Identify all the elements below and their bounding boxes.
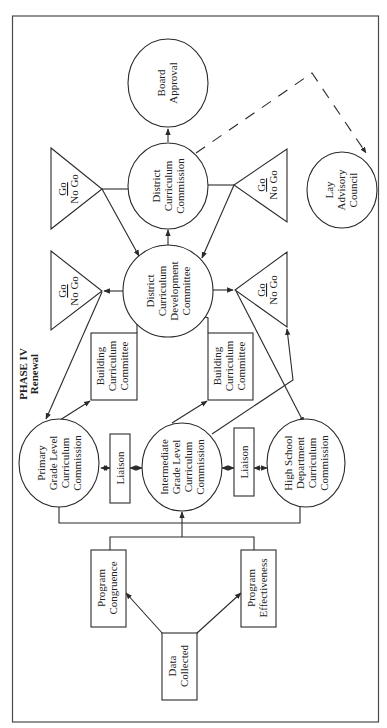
label-line: Grade Level <box>170 440 182 495</box>
label-line: Department <box>294 437 306 489</box>
no-go-label: No Go <box>267 275 279 305</box>
label-line: District <box>144 275 156 308</box>
decision-4: Go No Go <box>235 252 287 327</box>
node-intermediate-grade-commission: Intermediate Grade Level Curriculum Comm… <box>142 423 222 511</box>
node-building-committee-right: Building Curriculum Committee <box>208 333 253 400</box>
edge-intermediate-to-building <box>172 401 207 423</box>
label-line: Liaison <box>114 451 126 484</box>
go-label: Go <box>255 178 267 192</box>
label-line: Curriculum <box>223 340 235 391</box>
label-line: Lay <box>323 181 335 199</box>
label-line: Data <box>166 656 178 677</box>
node-high-school-commission: High School Department Curriculum Commis… <box>267 419 345 507</box>
label-line: Committee <box>180 266 192 315</box>
edge-data-to-congruence <box>126 593 163 634</box>
phase-subtitle: Renewal <box>28 354 40 394</box>
label-line: Collected <box>178 644 190 687</box>
node-district-curriculum-development-committee: District Curriculum Development Committe… <box>123 245 213 337</box>
no-go-label: No Go <box>68 276 80 306</box>
phase-iv-renewal-flowchart: Go No Go Go No Go Go No Go Go No Go Boar… <box>0 0 387 728</box>
node-data-collected: Data Collected <box>162 633 197 700</box>
label-line: Grade Level <box>47 436 59 491</box>
label-line: Building <box>211 346 223 385</box>
label-line: Development <box>168 261 180 320</box>
label-line: Council <box>347 173 359 208</box>
edge-data-to-effectiveness <box>196 593 241 634</box>
outer-border <box>13 16 379 722</box>
edge-primary-to-building <box>60 401 90 420</box>
label-line: Curriculum <box>182 441 194 492</box>
decision-2: Go No Go <box>51 251 102 330</box>
go-label: Go <box>56 284 68 298</box>
label-line: Congruence <box>107 561 119 614</box>
no-go-label: No Go <box>68 174 80 204</box>
label-line: Curriculum <box>162 160 174 211</box>
label-line: Program <box>245 569 257 607</box>
node-liaison-right: Liaison <box>234 428 254 496</box>
decision-3: Go No Go <box>234 149 287 222</box>
node-district-curriculum-commission: District Curriculum Commission <box>128 143 208 229</box>
label-line: Intermediate <box>158 439 170 495</box>
label-line: Primary <box>35 445 47 481</box>
label-line: Commission <box>71 435 83 491</box>
label-line: Advisory <box>335 169 347 210</box>
node-liaison-left: Liaison <box>110 434 130 503</box>
label-line: Curriculum <box>156 265 168 316</box>
label-line: High School <box>282 435 294 490</box>
label-line: Commission <box>174 158 186 214</box>
label-line: Building <box>94 346 106 385</box>
decision-1: Go No Go <box>51 148 102 229</box>
label-line: Committee <box>118 341 130 390</box>
edge-program-boxes-join <box>110 537 254 550</box>
label-line: Curriculum <box>306 437 318 488</box>
go-label: Go <box>56 182 68 196</box>
phase-label: PHASE IV Renewal <box>17 348 40 400</box>
edge-commission-to-lay-advisory <box>196 73 366 153</box>
node-program-effectiveness: Program Effectiveness <box>241 550 276 627</box>
label-line: Board <box>155 69 167 96</box>
go-label: Go <box>255 283 267 297</box>
label-line: Approval <box>167 62 179 104</box>
label-line: Effectiveness <box>257 558 269 617</box>
label-line: Curriculum <box>59 437 71 488</box>
node-lay-advisory-council: Lay Advisory Council <box>307 152 377 228</box>
label-line: Program <box>95 569 107 607</box>
no-go-label: No Go <box>267 170 279 200</box>
label-line: Curriculum <box>106 340 118 391</box>
label-line: Commission <box>194 439 206 495</box>
label-line: Commission <box>318 435 330 491</box>
node-building-committee-left: Building Curriculum Committee <box>91 333 137 400</box>
node-program-congruence: Program Congruence <box>91 550 126 627</box>
node-primary-grade-commission: Primary Grade Level Curriculum Commissio… <box>19 419 99 507</box>
node-board-approval: Board Approval <box>128 39 208 127</box>
label-line: District <box>150 170 162 203</box>
label-line: Liaison <box>238 445 250 478</box>
label-line: Committee <box>235 341 247 390</box>
